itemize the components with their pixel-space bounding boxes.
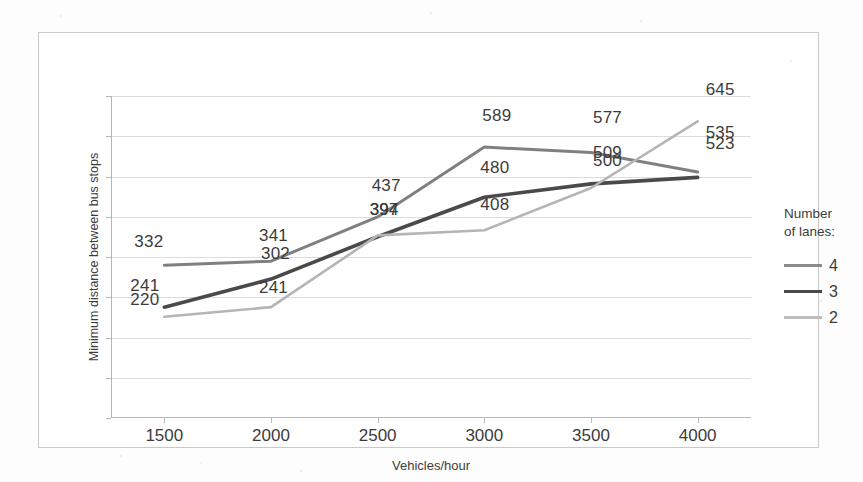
data-label: 523 xyxy=(706,135,735,152)
y-axis-title: Minimum distance between bus stops xyxy=(85,96,103,418)
scan-artifact xyxy=(820,300,822,302)
scan-artifact xyxy=(640,20,642,22)
data-label: 241 xyxy=(259,279,288,296)
data-label: 480 xyxy=(480,159,509,176)
data-label: 645 xyxy=(706,81,735,98)
legend-items: 432 xyxy=(784,253,863,331)
x-axis-tick-label: 3500 xyxy=(572,426,610,446)
data-label: 397 xyxy=(370,201,399,218)
legend-swatch xyxy=(784,264,822,267)
legend-item-3-lanes: 3 xyxy=(784,279,863,305)
plot-area: 3323414375895775352413023944805095232202… xyxy=(111,96,751,418)
chart-screenshot: Minimum distance between bus stops 33234… xyxy=(0,0,863,482)
data-label: 437 xyxy=(372,177,401,194)
scan-artifact xyxy=(120,455,122,457)
x-axis-tick xyxy=(164,418,165,423)
legend-label: 2 xyxy=(829,309,838,327)
series-lines xyxy=(111,96,751,418)
data-label: 302 xyxy=(261,245,290,262)
x-axis-tick xyxy=(271,418,272,423)
x-axis-tick xyxy=(698,418,699,423)
scan-artifact xyxy=(300,470,302,472)
legend-title-line-1: Number xyxy=(784,205,863,223)
legend-swatch xyxy=(784,316,822,319)
x-axis-tick-label: 2000 xyxy=(252,426,290,446)
legend: Number of lanes: 432 xyxy=(784,205,863,331)
legend-label: 3 xyxy=(829,283,838,301)
scan-artifact xyxy=(430,12,432,14)
data-label: 332 xyxy=(134,233,163,250)
data-label: 577 xyxy=(593,109,622,126)
series-line-3-lanes xyxy=(164,177,697,307)
x-axis-tick-label: 2500 xyxy=(359,426,397,446)
data-label: 220 xyxy=(130,291,159,308)
data-label: 341 xyxy=(259,227,288,244)
legend-title: Number of lanes: xyxy=(784,205,863,241)
x-axis-tick-label: 1500 xyxy=(145,426,183,446)
x-axis-tick-label: 3000 xyxy=(465,426,503,446)
scan-artifact xyxy=(60,15,62,17)
legend-item-4-lanes: 4 xyxy=(784,253,863,279)
x-axis-tick-label: 4000 xyxy=(679,426,717,446)
y-axis-tick xyxy=(106,418,111,419)
x-axis-tick xyxy=(378,418,379,423)
legend-swatch xyxy=(784,290,822,293)
data-label: 408 xyxy=(480,196,509,213)
y-axis-title-text: Minimum distance between bus stops xyxy=(87,153,101,361)
data-label: 589 xyxy=(482,107,511,124)
x-axis-title: Vehicles/hour xyxy=(392,458,470,473)
scan-artifact xyxy=(200,462,202,464)
legend-label: 4 xyxy=(829,257,838,275)
scan-artifact xyxy=(790,60,792,62)
x-axis-tick xyxy=(591,418,592,423)
legend-item-2-lanes: 2 xyxy=(784,305,863,331)
data-label: 500 xyxy=(593,152,622,169)
legend-title-line-2: of lanes: xyxy=(784,223,863,241)
chart-frame: Minimum distance between bus stops 33234… xyxy=(38,32,819,448)
x-axis-tick xyxy=(484,418,485,423)
